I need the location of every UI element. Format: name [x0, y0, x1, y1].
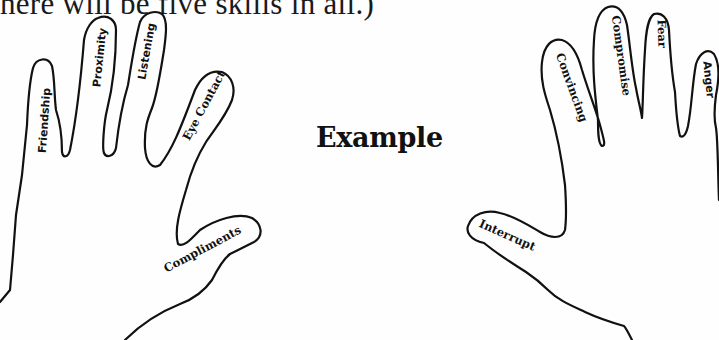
finger-label-fear: Fear [655, 19, 667, 48]
left-hand-outline [0, 12, 261, 340]
diagram-title: Example [316, 122, 443, 153]
finger-label-anger: Anger [701, 60, 716, 98]
hands-diagram [0, 0, 719, 340]
document-page: here will be five skills in all.) Friend… [0, 0, 719, 340]
right-hand-outline [468, 6, 719, 340]
